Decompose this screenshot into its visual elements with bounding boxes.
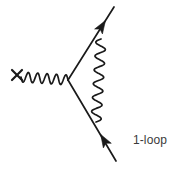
arrow-head-icon [95, 21, 106, 34]
loop-photon-line [92, 39, 106, 122]
diagram-caption: 1-loop [133, 133, 167, 148]
feynman-diagram-figure: 1-loop [0, 0, 181, 174]
arrow-head-icon [101, 134, 112, 148]
outgoing-fermion-line [68, 7, 114, 80]
external-photon-line [21, 72, 68, 84]
incoming-fermion-line [68, 80, 116, 161]
